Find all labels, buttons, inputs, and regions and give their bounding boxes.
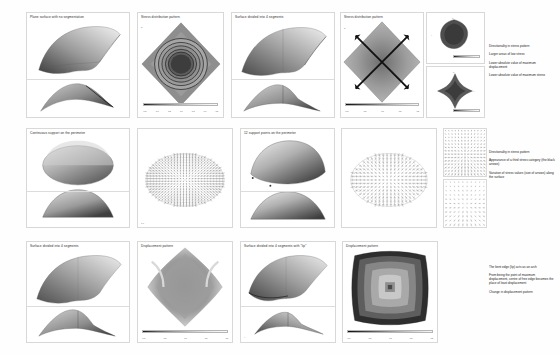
panel-surface-4-segments-b[interactable]: Surface divided into 4 segments <box>26 241 130 343</box>
panel-detail-vectors-top[interactable] <box>443 128 487 177</box>
axis-label-y: Y <box>244 336 245 338</box>
view-divider <box>241 306 335 307</box>
stress-contour-directional <box>341 13 423 117</box>
colorbar-tick: -1.5 <box>142 337 145 339</box>
panel-caption: Displacement pattern <box>346 244 392 248</box>
colorbar-tick: 1.5 <box>416 110 419 112</box>
panel-caption: Surface divided into 4 segments <box>235 15 283 19</box>
hypar-surface-views <box>27 13 129 117</box>
colorbar <box>453 55 480 58</box>
segmented-surface-views-b <box>27 242 129 342</box>
panel-vectorfield-sparse[interactable] <box>341 128 437 228</box>
view-divider <box>241 191 334 192</box>
view-divider <box>27 191 129 192</box>
panel-thumbnail-stress-star[interactable]: Z X <box>426 66 485 118</box>
colorbar-ticks: -1.5 -0.5 0.0 0.5 1.5 <box>347 337 433 339</box>
annotation-item: Lower absolute value of maximum stress <box>489 73 555 77</box>
panel-plane-surface[interactable]: Plane surface with no segmentation <box>26 12 130 118</box>
colorbar-tick: 0.5 <box>410 337 413 339</box>
dome-surface-views <box>27 129 129 227</box>
colorbar <box>142 330 228 333</box>
colorbar-tick: 0.0 <box>381 110 384 112</box>
panel-vectorfield-dense[interactable]: 1.0 <box>137 128 233 228</box>
panel-caption: Plane surface with no segmentation <box>30 15 84 19</box>
colorbar <box>453 109 480 112</box>
panel-thumbnail-stress-blob[interactable]: Z Y <box>426 12 485 64</box>
segmented-surface-views <box>232 13 334 117</box>
panel-caption: 12 support points on the perimeter <box>244 131 296 135</box>
panel-stress-cross-arrows[interactable]: Stress distribution pattern Z <box>340 12 424 118</box>
axis-label-z: Z <box>141 26 142 28</box>
view-divider <box>27 79 129 80</box>
dome-vector-field-sparse <box>342 129 436 227</box>
panel-surface-4-segments[interactable]: Surface divided into 4 segments <box>231 12 335 118</box>
annotation-item: Appearance of a third stress category (t… <box>489 158 555 166</box>
panel-caption: Continuous support on the perimeter <box>30 131 85 135</box>
annotation-item: Larger areas of low stress <box>489 52 555 56</box>
panel-continuous-support[interactable]: Continuous support on the perimeter <box>26 128 130 228</box>
panel-caption: Surface divided into 4 segments <box>30 244 78 248</box>
colorbar-ticks: -1.5 -0.5 0.0 0.5 1.5 <box>142 337 228 339</box>
colorbar-tick: 1.0 <box>204 110 207 112</box>
colorbar-tick: 0.5 <box>205 337 208 339</box>
colorbar-tick: 0.5 <box>192 110 195 112</box>
figure-sheet: Plane surface with no segmentation <box>0 0 560 355</box>
detail-vectors-top-plot <box>444 129 486 176</box>
annotation-list-row3: The bent edge (lip) acts as an arch From… <box>489 265 555 298</box>
panel-stress-concentric[interactable]: Stress distribution pattern Z -1.5 -1.0 <box>137 12 224 118</box>
colorbar <box>345 103 419 106</box>
axis-label-z: Z <box>344 27 345 29</box>
colorbar-tick: 1.5 <box>430 337 433 339</box>
dome-vector-field-dense <box>138 129 232 227</box>
figure-row-2: Continuous support on the perimeter <box>0 128 560 232</box>
colorbar-tick: -1.0 <box>155 110 158 112</box>
panel-caption: Displacement pattern <box>141 244 173 248</box>
annotation-item: The bent edge (lip) acts as an arch <box>489 265 555 269</box>
annotation-item: Variation of stress values (size of arro… <box>489 171 555 179</box>
colorbar <box>347 330 433 333</box>
segmented-surface-lip-views <box>241 242 335 342</box>
colorbar-tick: -1.5 <box>347 337 350 339</box>
svg-text:Z: Z <box>452 17 454 19</box>
annotation-list-row1: Directionality in stress pattern Larger … <box>489 44 555 81</box>
colorbar-tick: -1.5 <box>345 110 348 112</box>
svg-text:Z: Z <box>453 71 455 73</box>
annotation-item: Directionality in stress pattern <box>489 44 555 48</box>
view-divider <box>27 306 129 307</box>
panel-displacement-banded[interactable]: Displacement pattern -1.5 -0.5 0.0 0.5 <box>342 241 438 343</box>
displacement-contour-soft <box>138 242 232 342</box>
annotation-item: From being the point of maximum displace… <box>489 273 555 285</box>
panel-displacement-soft[interactable]: Displacement pattern <box>137 241 233 343</box>
annotation-item: Lower absolute value of maximum displace… <box>489 61 555 69</box>
scale-tag: 1.0 <box>141 222 144 224</box>
figure-row-3: Surface divided into 4 segments <box>0 241 560 347</box>
annotation-item: Change in displacement pattern <box>489 290 555 294</box>
colorbar-tick: 0.0 <box>389 337 392 339</box>
annotation-list-row2: Directionality in stress pattern Appeara… <box>489 150 555 183</box>
panel-surface-4-segments-lip[interactable]: Surface divided into 4 segments with "li… <box>240 241 336 343</box>
colorbar-tick: 0.0 <box>184 337 187 339</box>
colorbar-tick: -0.5 <box>168 110 171 112</box>
dome-points-views <box>241 129 334 227</box>
colorbar-tick: -0.5 <box>363 110 366 112</box>
displacement-contour-banded <box>343 242 437 342</box>
panel-caption: Surface divided into 4 segments with "li… <box>244 244 306 248</box>
panel-12-support-points[interactable]: 12 support points on the perimeter <box>240 128 335 228</box>
colorbar-tick: 0.5 <box>399 110 402 112</box>
colorbar-ticks: -1.5 -0.5 0.0 0.5 1.5 <box>345 110 419 112</box>
svg-text:X: X <box>473 90 475 92</box>
panel-caption: Stress distribution pattern <box>344 15 383 19</box>
colorbar-tick: 1.5 <box>225 337 228 339</box>
view-divider <box>232 79 334 80</box>
colorbar-tick: -1.5 <box>143 110 146 112</box>
panel-detail-vectors-bottom[interactable] <box>443 179 487 228</box>
colorbar <box>143 103 218 106</box>
panel-caption: Stress distribution pattern <box>141 15 180 19</box>
colorbar-ticks: -1.5 -1.0 -0.5 0.0 0.5 1.0 1.5 <box>143 110 218 112</box>
colorbar-tick: 0.0 <box>180 110 183 112</box>
svg-text:Y: Y <box>431 34 433 36</box>
colorbar-tick: 1.5 <box>215 110 218 112</box>
figure-row-1: Plane surface with no segmentation <box>0 8 560 120</box>
colorbar-tick: -0.5 <box>368 337 371 339</box>
colorbar-tick: -0.5 <box>163 337 166 339</box>
